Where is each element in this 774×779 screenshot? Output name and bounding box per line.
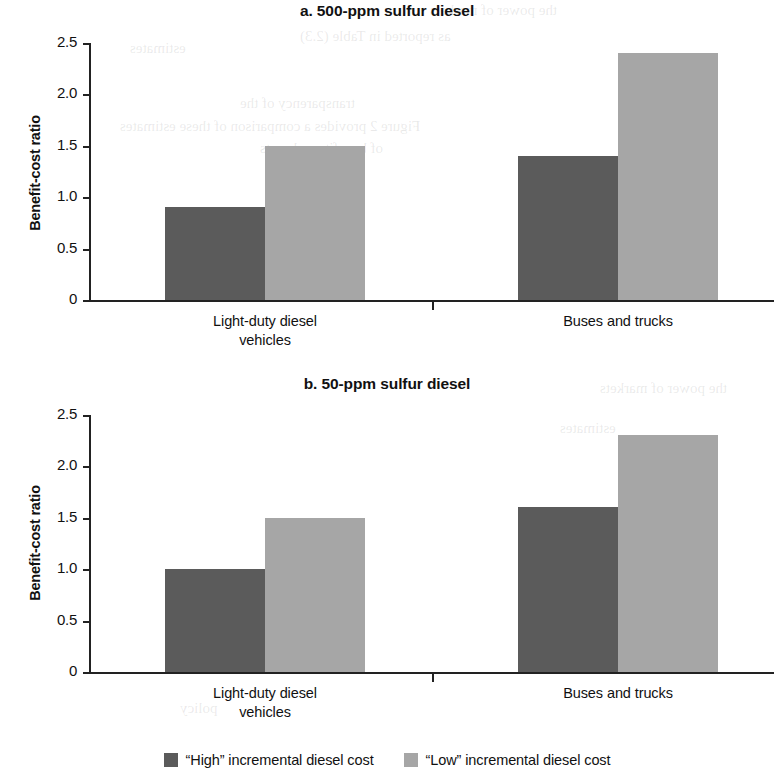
panel-a-xtick-line1: Light-duty diesel xyxy=(165,312,365,331)
panel-a-ytick xyxy=(83,197,90,199)
panel-b-ytick-label: 0.5 xyxy=(33,611,77,628)
panel-b-xtick-label-lightduty: Light-duty diesel vehicles xyxy=(165,684,365,722)
panel-b-ytick xyxy=(83,518,90,520)
panel-b-xtick-line2: vehicles xyxy=(165,703,365,722)
panel-a-ytick-label: 1.0 xyxy=(33,187,77,204)
panel-a-ytick xyxy=(83,300,90,302)
legend-label-low: “Low” incremental diesel cost xyxy=(426,752,611,768)
panel-a-ytick xyxy=(83,249,90,251)
bar-a-buses-low xyxy=(618,53,718,300)
panel-a-ytick xyxy=(83,43,90,45)
panel-a-ytick-label: 1.5 xyxy=(33,136,77,153)
legend-swatch-high-icon xyxy=(164,753,178,767)
bar-b-lightduty-high xyxy=(165,569,265,672)
panel-b-y-axis xyxy=(89,415,91,673)
panel-b-xtick-label-buses: Buses and trucks xyxy=(518,684,718,703)
legend-label-high: “High” incremental diesel cost xyxy=(186,752,374,768)
panel-b-ytick xyxy=(83,672,90,674)
panel-b-xtick-line1: Buses and trucks xyxy=(518,684,718,703)
panel-a-xtick-label-buses: Buses and trucks xyxy=(518,312,718,331)
bar-b-buses-low xyxy=(618,435,718,672)
legend-item-high: “High” incremental diesel cost xyxy=(164,752,374,768)
panel-b-xtick-line1: Light-duty diesel xyxy=(165,684,365,703)
bar-a-buses-high xyxy=(518,156,618,300)
panel-a-xtick-line2: vehicles xyxy=(165,331,365,350)
panel-b-ytick-label: 2.5 xyxy=(33,405,77,422)
figure-page: the power of markets as reported in Tabl… xyxy=(0,0,774,779)
panel-a-plot-area: 2.5 2.0 1.5 1.0 0.5 0 Light-duty diesel xyxy=(0,0,774,380)
panel-b-category-separator xyxy=(432,673,434,682)
bar-a-lightduty-low xyxy=(265,146,365,300)
panel-a-y-axis xyxy=(89,43,91,301)
legend-swatch-low-icon xyxy=(404,753,418,767)
panel-a-category-separator xyxy=(432,301,434,310)
panel-b-ytick-label: 1.5 xyxy=(33,508,77,525)
panel-b-plot-area: 2.5 2.0 1.5 1.0 0.5 0 Light-duty diesel … xyxy=(0,370,774,750)
panel-b-ytick-label: 1.0 xyxy=(33,559,77,576)
panel-a-ytick-label: 0 xyxy=(33,290,77,307)
panel-b-ytick xyxy=(83,569,90,571)
bar-a-lightduty-high xyxy=(165,207,265,300)
bar-b-buses-high xyxy=(518,507,618,672)
panel-a-ytick-label: 2.0 xyxy=(33,84,77,101)
chart-panel-a: a. 500-ppm sulfur diesel Benefit-cost ra… xyxy=(0,0,774,380)
chart-panel-b: b. 50-ppm sulfur diesel Benefit-cost rat… xyxy=(0,370,774,750)
panel-b-ytick-label: 0 xyxy=(33,662,77,679)
panel-b-ytick xyxy=(83,621,90,623)
panel-a-ytick-label: 0.5 xyxy=(33,239,77,256)
bar-b-lightduty-low xyxy=(265,518,365,672)
panel-a-xtick-line1: Buses and trucks xyxy=(518,312,718,331)
panel-a-xtick-label-lightduty: Light-duty diesel vehicles xyxy=(165,312,365,350)
legend-item-low: “Low” incremental diesel cost xyxy=(404,752,611,768)
panel-a-ytick xyxy=(83,94,90,96)
panel-a-ytick xyxy=(83,146,90,148)
panel-b-ytick xyxy=(83,415,90,417)
panel-b-ytick-label: 2.0 xyxy=(33,456,77,473)
chart-legend: “High” incremental diesel cost “Low” inc… xyxy=(0,752,774,768)
panel-a-ytick-label: 2.5 xyxy=(33,33,77,50)
panel-b-ytick xyxy=(83,466,90,468)
